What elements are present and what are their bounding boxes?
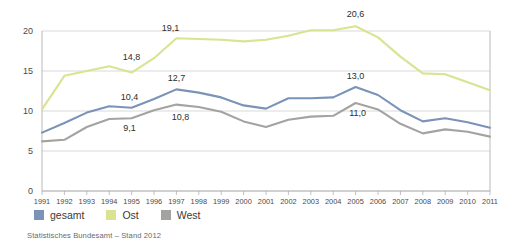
gridlines: [42, 31, 490, 191]
x-axis-tick-label: 2008: [415, 197, 431, 206]
x-axis-tick-label: 2009: [437, 197, 453, 206]
data-point-label: 12,7: [168, 73, 186, 83]
x-axis-tick-labels: 1991199219931994199519961997199819992000…: [34, 197, 498, 206]
x-axis-tick-label: 2007: [392, 197, 408, 206]
data-point-label: 19,1: [162, 23, 180, 33]
data-point-label: 10,8: [172, 112, 190, 122]
x-axis-tick-label: 2003: [303, 197, 319, 206]
legend-item-label: Ost: [122, 209, 138, 221]
legend-item-west[interactable]: West: [161, 209, 201, 221]
x-axis-tick-label: 1991: [34, 197, 50, 206]
legend-item-label: West: [177, 209, 201, 221]
x-axis-tick-label: 2000: [235, 197, 251, 206]
unemployment-rate-line-chart: 05101520 1991199219931994199519961997199…: [0, 0, 519, 246]
y-axis-tick-label: 0: [28, 186, 33, 196]
legend-item-ost[interactable]: Ost: [106, 209, 138, 221]
x-axis-tick-label: 2004: [325, 197, 341, 206]
y-axis-tick-labels: 05101520: [23, 26, 33, 196]
x-axis-tick-label: 1992: [56, 197, 72, 206]
source-note: Statistisches Bundesamt – Stand 2012: [27, 231, 161, 240]
x-axis-tick-label: 1998: [191, 197, 207, 206]
x-axis-tick-label: 2006: [370, 197, 386, 206]
y-axis-tick-label: 5: [28, 146, 33, 156]
y-axis-tick-label: 20: [23, 26, 33, 36]
data-point-label: 10,4: [121, 92, 139, 102]
legend-color-swatch: [161, 210, 171, 220]
y-axis-tick-label: 10: [23, 106, 33, 116]
x-axis-tick-label: 2005: [347, 197, 363, 206]
data-point-label: 14,8: [123, 52, 141, 62]
data-point-label: 20,6: [347, 9, 365, 19]
x-axis-tick-label: 2010: [459, 197, 475, 206]
x-axis-tick-label: 2011: [482, 197, 498, 206]
x-axis-tick-label: 2001: [258, 197, 274, 206]
legend-item-label: gesamt: [50, 209, 84, 221]
legend-item-gesamt[interactable]: gesamt: [34, 209, 84, 221]
x-axis-tick-label: 1995: [123, 197, 139, 206]
x-axis-tick-label: 1996: [146, 197, 162, 206]
x-axis-tick-label: 2002: [280, 197, 296, 206]
data-point-label: 9,1: [123, 123, 136, 133]
chart-legend: gesamtOstWest: [34, 207, 223, 223]
legend-color-swatch: [34, 210, 44, 220]
y-axis-tick-label: 15: [23, 66, 33, 76]
x-axis-tick-label: 1993: [79, 197, 95, 206]
data-point-label: 13,0: [347, 71, 365, 81]
x-axis-tick-label: 1999: [213, 197, 229, 206]
series-line-ost: [42, 26, 490, 109]
x-axis-tick-label: 1994: [101, 197, 117, 206]
legend-color-swatch: [106, 210, 116, 220]
data-point-label: 11,0: [349, 108, 366, 118]
series-line-gesamt: [42, 87, 490, 133]
x-axis-tick-label: 1997: [168, 197, 184, 206]
data-series-lines: [42, 26, 490, 141]
axes: [42, 31, 490, 195]
